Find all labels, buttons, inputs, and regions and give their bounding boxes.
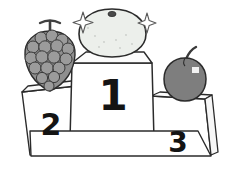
rank-number-second: 2 bbox=[41, 107, 62, 142]
fruit-podium-illustration: 1 2 3 bbox=[0, 0, 230, 170]
rank-number-third: 3 bbox=[168, 126, 187, 159]
grapefruit-navel-spot bbox=[108, 11, 116, 16]
apple-icon bbox=[164, 47, 206, 101]
apple-body bbox=[164, 58, 206, 101]
apple-highlight bbox=[192, 67, 199, 73]
grapefruit-icon bbox=[79, 9, 146, 57]
grapes-icon bbox=[25, 21, 75, 92]
apple-stem bbox=[186, 47, 196, 59]
illustration-canvas: 1 2 3 bbox=[0, 0, 230, 170]
rank-number-first: 1 bbox=[98, 71, 127, 120]
